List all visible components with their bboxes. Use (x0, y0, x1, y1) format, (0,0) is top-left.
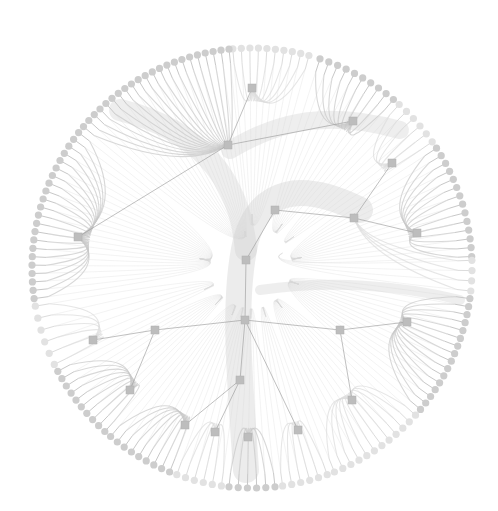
leaf-node[interactable] (371, 447, 378, 454)
leaf-node[interactable] (121, 85, 128, 92)
leaf-node[interactable] (438, 152, 445, 159)
hub-node[interactable] (126, 386, 134, 394)
leaf-node[interactable] (262, 484, 269, 491)
leaf-node[interactable] (135, 76, 142, 83)
leaf-node[interactable] (468, 257, 475, 264)
leaf-node[interactable] (49, 172, 56, 179)
leaf-node[interactable] (316, 55, 323, 62)
leaf-node[interactable] (51, 361, 58, 368)
leaf-node[interactable] (54, 368, 61, 375)
leaf-node[interactable] (446, 168, 453, 175)
leaf-node[interactable] (324, 471, 331, 478)
leaf-node[interactable] (457, 335, 464, 342)
leaf-node[interactable] (37, 203, 44, 210)
leaf-node[interactable] (128, 448, 135, 455)
leaf-node[interactable] (279, 482, 286, 489)
leaf-node[interactable] (355, 457, 362, 464)
leaf-node[interactable] (121, 444, 128, 451)
leaf-node[interactable] (31, 228, 38, 235)
leaf-node[interactable] (375, 84, 382, 91)
leaf-node[interactable] (102, 100, 109, 107)
leaf-node[interactable] (289, 48, 296, 55)
leaf-node[interactable] (115, 90, 122, 97)
leaf-node[interactable] (444, 365, 451, 372)
leaf-node[interactable] (390, 96, 397, 103)
hub-node[interactable] (388, 159, 396, 167)
hub-node[interactable] (348, 396, 356, 404)
leaf-node[interactable] (448, 358, 455, 365)
leaf-node[interactable] (393, 431, 400, 438)
leaf-node[interactable] (95, 422, 102, 429)
leaf-node[interactable] (412, 412, 419, 419)
hub-node[interactable] (89, 336, 97, 344)
leaf-node[interactable] (253, 484, 260, 491)
leaf-node[interactable] (40, 195, 47, 202)
leaf-node[interactable] (61, 150, 68, 157)
leaf-node[interactable] (34, 315, 41, 322)
leaf-node[interactable] (297, 479, 304, 486)
leaf-node[interactable] (96, 105, 103, 112)
leaf-node[interactable] (331, 468, 338, 475)
leaf-node[interactable] (416, 122, 423, 129)
leaf-node[interactable] (468, 267, 475, 274)
leaf-node[interactable] (225, 483, 232, 490)
leaf-node[interactable] (91, 111, 98, 118)
hub-node[interactable] (224, 141, 232, 149)
hub-node[interactable] (242, 256, 250, 264)
leaf-node[interactable] (456, 192, 463, 199)
leaf-node[interactable] (101, 428, 108, 435)
leaf-node[interactable] (351, 70, 358, 77)
leaf-node[interactable] (191, 477, 198, 484)
leaf-node[interactable] (107, 433, 114, 440)
leaf-node[interactable] (422, 399, 429, 406)
leaf-node[interactable] (218, 482, 225, 489)
leaf-node[interactable] (325, 58, 332, 65)
leaf-node[interactable] (462, 319, 469, 326)
leaf-node[interactable] (339, 465, 346, 472)
leaf-node[interactable] (75, 129, 82, 136)
leaf-node[interactable] (182, 474, 189, 481)
leaf-node[interactable] (56, 157, 63, 164)
leaf-node[interactable] (202, 49, 209, 56)
hub-node[interactable] (336, 326, 344, 334)
leaf-node[interactable] (280, 47, 287, 54)
leaf-node[interactable] (297, 50, 304, 57)
leaf-node[interactable] (272, 46, 279, 53)
leaf-node[interactable] (427, 393, 434, 400)
hub-node[interactable] (181, 421, 189, 429)
leaf-node[interactable] (194, 51, 201, 58)
leaf-node[interactable] (399, 425, 406, 432)
leaf-node[interactable] (178, 56, 185, 63)
leaf-node[interactable] (29, 245, 36, 252)
leaf-node[interactable] (135, 453, 142, 460)
leaf-node[interactable] (410, 115, 417, 122)
hub-node[interactable] (211, 428, 219, 436)
hub-node[interactable] (403, 318, 411, 326)
leaf-node[interactable] (156, 65, 163, 72)
leaf-node[interactable] (186, 53, 193, 60)
leaf-node[interactable] (29, 287, 36, 294)
leaf-node[interactable] (440, 372, 447, 379)
leaf-node[interactable] (467, 287, 474, 294)
leaf-node[interactable] (347, 461, 354, 468)
leaf-node[interactable] (359, 74, 366, 81)
leaf-node[interactable] (30, 295, 37, 302)
hub-node[interactable] (294, 426, 302, 434)
leaf-node[interactable] (28, 270, 35, 277)
leaf-node[interactable] (459, 327, 466, 334)
leaf-node[interactable] (334, 62, 341, 69)
leaf-node[interactable] (468, 244, 475, 251)
leaf-node[interactable] (53, 164, 60, 171)
hub-node[interactable] (244, 433, 252, 441)
leaf-node[interactable] (383, 90, 390, 97)
leaf-node[interactable] (244, 484, 251, 491)
leaf-node[interactable] (367, 79, 374, 86)
leaf-node[interactable] (58, 375, 65, 382)
leaf-node[interactable] (403, 108, 410, 115)
leaf-node[interactable] (114, 438, 121, 445)
leaf-node[interactable] (432, 386, 439, 393)
hub-node[interactable] (151, 326, 159, 334)
leaf-node[interactable] (63, 382, 70, 389)
leaf-node[interactable] (465, 303, 472, 310)
leaf-node[interactable] (386, 437, 393, 444)
